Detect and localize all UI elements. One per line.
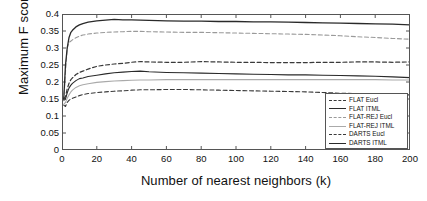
legend-label: FLAT Eucl (349, 97, 378, 103)
legend-label: FLAT-REJ Eucl (349, 114, 392, 120)
chart-legend[interactable]: FLAT EuclFLAT ITMLFLAT-REJ EuclFLAT-REJ … (325, 93, 408, 149)
legend-item-flat-rej-itml[interactable]: FLAT-REJ ITML (326, 122, 407, 131)
y-tick-label: 0.3 (11, 43, 59, 53)
legend-item-flat-rej-eucl[interactable]: FLAT-REJ Eucl (326, 113, 407, 122)
y-tick-label: 0.25 (11, 60, 59, 70)
y-tick-label: 0.1 (11, 111, 59, 121)
chart-figure: Maximum F score 00.050.10.150.20.250.30.… (0, 0, 427, 201)
legend-label: DARTS Eucl (349, 131, 385, 137)
legend-line-sample-icon (329, 134, 346, 135)
legend-line-sample-icon (329, 143, 346, 144)
y-tick-label: 0.4 (11, 9, 59, 19)
legend-label: DARTS ITML (349, 140, 387, 146)
legend-label: FLAT-REJ ITML (349, 123, 394, 129)
legend-line-sample-icon (329, 100, 346, 101)
y-tick-label: 0.15 (11, 94, 59, 104)
y-tick-label: 0.2 (11, 77, 59, 87)
x-axis-title: Number of nearest neighbors (k) (62, 173, 410, 188)
legend-item-darts-eucl[interactable]: DARTS Eucl (326, 130, 407, 139)
legend-line-sample-icon (329, 117, 346, 118)
y-tick-label: 0.05 (11, 128, 59, 138)
x-tick-label: 200 (390, 154, 427, 164)
legend-line-sample-icon (329, 108, 346, 109)
legend-item-darts-itml[interactable]: DARTS ITML (326, 139, 407, 148)
legend-label: FLAT ITML (349, 106, 380, 112)
legend-item-flat-itml[interactable]: FLAT ITML (326, 105, 407, 114)
legend-line-sample-icon (329, 126, 346, 127)
series-line-darts-itml (64, 19, 410, 99)
y-tick-label: 0.35 (11, 26, 59, 36)
legend-item-flat-eucl[interactable]: FLAT Eucl (326, 96, 407, 105)
